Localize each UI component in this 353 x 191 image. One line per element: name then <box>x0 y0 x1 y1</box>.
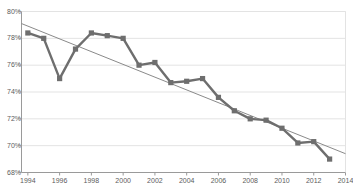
trendline <box>22 24 346 154</box>
x-tick-label: 2004 <box>179 177 195 184</box>
x-tick-label: 2010 <box>274 177 290 184</box>
data-point-marker <box>41 36 46 41</box>
x-tick-label: 2008 <box>242 177 258 184</box>
data-point-marker <box>279 126 284 131</box>
x-axis-tick-labels: 1994199619982000200220042006200820102012… <box>0 176 353 191</box>
data-point-marker <box>168 80 173 85</box>
data-point-marker <box>57 76 62 81</box>
x-tick-label: 1998 <box>84 177 100 184</box>
data-point-marker <box>152 60 157 65</box>
data-point-marker <box>248 116 253 121</box>
data-point-marker <box>73 46 78 51</box>
data-point-marker <box>184 79 189 84</box>
x-tick-label: 2000 <box>115 177 131 184</box>
data-point-marker <box>200 76 205 81</box>
data-point-marker <box>216 95 221 100</box>
x-tick-label: 2012 <box>306 177 322 184</box>
data-point-marker <box>121 36 126 41</box>
x-tick-label: 2002 <box>147 177 163 184</box>
data-line <box>28 33 330 159</box>
data-point-marker <box>136 63 141 68</box>
chart-container: 80%78%76%74%72%70%68% 199419961998200020… <box>0 0 353 191</box>
data-point-marker <box>89 30 94 35</box>
x-tick-label: 2014 <box>338 177 353 184</box>
trendline-path <box>22 24 346 154</box>
data-point-marker <box>327 156 332 161</box>
plot-area <box>0 0 353 191</box>
series-polyline <box>28 33 330 159</box>
data-point-marker <box>232 108 237 113</box>
data-markers <box>25 30 332 161</box>
data-point-marker <box>311 139 316 144</box>
data-point-marker <box>25 30 30 35</box>
x-tick-label: 1996 <box>52 177 68 184</box>
gridlines <box>22 12 346 146</box>
x-tick-label: 1994 <box>20 177 36 184</box>
data-point-marker <box>295 140 300 145</box>
x-tick-label: 2006 <box>211 177 227 184</box>
data-point-marker <box>105 33 110 38</box>
data-point-marker <box>263 118 268 123</box>
